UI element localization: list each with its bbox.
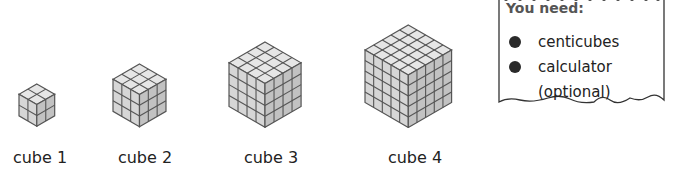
cube-3-label: cube 3 xyxy=(244,148,298,167)
you-need-note: You need: centicubes calculator (optiona… xyxy=(498,0,666,120)
bullet-icon xyxy=(509,36,521,48)
cube-3-drawing xyxy=(228,41,302,128)
item-label: centicubes xyxy=(538,33,619,51)
cube-4-drawing xyxy=(364,24,453,129)
cube-1-drawing xyxy=(18,83,56,127)
note-title: You need: xyxy=(506,0,584,16)
list-item-optional: (optional) xyxy=(506,80,619,105)
cube-1-label: cube 1 xyxy=(13,148,67,167)
item-label: calculator xyxy=(538,58,612,76)
cube-2-drawing xyxy=(112,63,167,128)
cube-2-label: cube 2 xyxy=(118,148,172,167)
cube-4-label: cube 4 xyxy=(388,148,442,167)
list-item-centicubes: centicubes xyxy=(506,30,619,55)
materials-list: centicubes calculator (optional) xyxy=(506,30,619,105)
list-item-calculator: calculator xyxy=(506,55,619,80)
bullet-icon xyxy=(509,61,521,73)
